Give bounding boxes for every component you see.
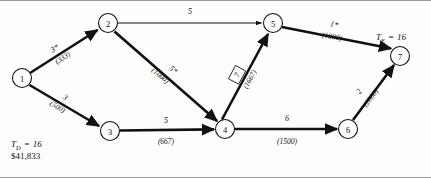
svg-text:TE=16: TE=16 [376,32,407,44]
total-cost-label: $41,833 [11,151,41,161]
edge-4-6-time: 6 [285,114,289,123]
edge-4-6-cost: (1500) [277,137,297,146]
edge-4-5-cost: (1667) [241,68,259,90]
td-annotation: TD=16 $41,833 [11,139,42,161]
node-6[interactable]: 6 [339,120,358,139]
node-1-label: 1 [20,74,24,84]
edge-4-5-time: 7 [232,70,242,79]
network-diagram-figure: 1 2 3 4 5 6 7 [0,0,431,178]
td-value: 16 [33,139,43,149]
td-equals: = [24,139,30,149]
node-6-label: 6 [346,125,350,135]
td-subscript: D [15,144,21,151]
te-annotation: TE=16 [376,32,407,44]
edge-5-7-cost: (1000) [321,30,343,43]
node-5[interactable]: 5 [264,14,283,33]
edge-1-2-label: 3* (333) [47,39,72,66]
te-subscript: E [380,37,385,44]
diagram-canvas: 1 2 3 4 5 6 7 [0,1,431,178]
te-value: 16 [397,32,407,42]
edge-6-7-cost: (2000) [361,87,381,109]
edge-1-3-label: 3 (500) [48,88,73,115]
node-7[interactable]: 7 [391,47,410,66]
edge-1-2-time: 3* [48,43,60,55]
edge-3-4 [120,129,214,130]
node-1[interactable]: 1 [13,69,32,88]
te-equals: = [388,32,394,42]
edge-3-4-cost: (667) [158,137,175,146]
svg-text:TD=16: TD=16 [11,139,42,151]
edge-1-3-time: 3 [60,92,69,102]
node-4[interactable]: 4 [216,120,235,139]
edge-3-4-time: 5 [164,116,168,125]
edge-2-4-label: 5* (1000) [150,56,180,86]
node-5-label: 5 [271,19,275,29]
edge-2-5-time: 5 [188,7,192,16]
edge-2-4-time: 5* [167,64,179,76]
node-7-label: 7 [398,52,402,62]
node-3[interactable]: 3 [101,122,120,141]
node-3-label: 3 [108,127,112,137]
edge-6-7-time: 2 [354,87,364,96]
edge-6-7-label: 2 (2000) [351,79,381,109]
node-group: 1 2 3 4 5 6 7 [13,14,410,141]
node-2-label: 2 [106,19,110,29]
edge-5-7-time: 1* [329,19,339,29]
node-2[interactable]: 2 [99,14,118,33]
edge-4-5-label: 7 (1667) [228,61,258,90]
